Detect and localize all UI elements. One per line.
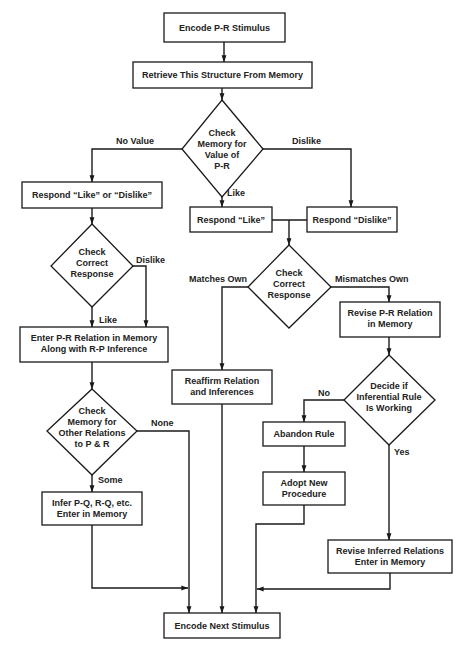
label-yes: Yes [394, 447, 410, 457]
node-label: Enter P-R Relation in Memory [31, 333, 158, 343]
node-label: in Memory [367, 319, 412, 329]
label-like-top: Like [227, 188, 245, 198]
node-label: Retrieve This Structure From Memory [142, 70, 303, 80]
edge-no [304, 400, 344, 422]
node-label: Along with R-P Inference [41, 344, 147, 354]
node-label: Respond “Dislike” [312, 215, 391, 225]
node-label: Correct [273, 279, 305, 289]
node-label: Enter in Memory [57, 509, 128, 519]
node-check-correct-left: Check Correct Response [51, 224, 133, 307]
edge-none [137, 431, 189, 613]
node-label: Correct [76, 258, 108, 268]
label-like-left: Like [99, 315, 117, 325]
edge-infer-to-join [92, 525, 188, 588]
node-label: Check [78, 406, 106, 416]
node-label: Decide if [370, 381, 409, 391]
node-label: Adopt New [281, 478, 329, 488]
node-check-other: Check Memory for Other Relations to P & … [47, 389, 137, 475]
edge-mismatches-own [331, 287, 389, 302]
node-label: Check [208, 128, 236, 138]
node-label: Procedure [282, 489, 327, 499]
node-check-correct-right: Check Correct Response [248, 245, 331, 328]
edge-dislike-left [133, 266, 146, 327]
node-label: Respond “Like” or “Dislike” [32, 190, 152, 200]
edge-no-value [92, 149, 182, 182]
node-label: and Inferences [190, 387, 254, 397]
node-infer-pq: Infer P-Q, R-Q, etc. Enter in Memory [42, 492, 142, 525]
edge-matches-own [222, 287, 248, 370]
node-respond-dislike: Respond “Dislike” [307, 207, 397, 232]
node-label: P-R [214, 161, 230, 171]
node-label: Reaffirm Relation [185, 376, 260, 386]
label-dislike-left: Dislike [136, 255, 165, 265]
label-no-value: No Value [116, 136, 154, 146]
label-mismatches-own: Mismatches Own [335, 274, 409, 284]
node-reaffirm: Reaffirm Relation and Inferences [172, 370, 272, 404]
node-label: Abandon Rule [274, 429, 335, 439]
node-label: Enter in Memory [355, 557, 426, 567]
node-label: Revise P-R Relation [347, 308, 432, 318]
label-matches-own: Matches Own [189, 274, 247, 284]
node-label: Check [78, 247, 106, 257]
node-decide-rule: Decide if Inferential Rule Is Working [344, 355, 435, 445]
node-enter-pr: Enter P-R Relation in Memory Along with … [20, 327, 168, 362]
node-label: to P & R [75, 439, 110, 449]
node-label: Encode P-R Stimulus [179, 23, 270, 33]
node-label: Infer P-Q, R-Q, etc. [52, 498, 132, 508]
label-some: Some [98, 475, 123, 485]
node-label: Response [70, 269, 113, 279]
label-none: None [151, 418, 174, 428]
node-encode-pr: Encode P-R Stimulus [164, 13, 285, 42]
node-adopt: Adopt New Procedure [263, 472, 345, 505]
node-label: Check [275, 268, 303, 278]
node-label: Memory for [67, 417, 117, 427]
node-label: Respond “Like” [197, 215, 265, 225]
flowchart-canvas: No Value Dislike Like Dislike Like Match… [0, 0, 471, 650]
node-check-value: Check Memory for Value of P-R [182, 100, 263, 197]
label-no: No [318, 388, 330, 398]
node-label: Value of [205, 150, 241, 160]
node-respond-like-or-dislike: Respond “Like” or “Dislike” [22, 182, 162, 208]
node-label: Inferential Rule [356, 392, 421, 402]
node-abandon: Abandon Rule [263, 422, 345, 446]
edge-revise-inferred-to-join [257, 573, 390, 589]
node-label: Other Relations [58, 428, 125, 438]
label-dislike-top: Dislike [292, 136, 321, 146]
node-label: Memory for [197, 139, 247, 149]
node-revise-inferred: Revise Inferred Relations Enter in Memor… [328, 540, 452, 573]
node-retrieve: Retrieve This Structure From Memory [133, 62, 312, 88]
edge-adopt-to-next [256, 505, 304, 613]
node-revise-pr: Revise P-R Relation in Memory [340, 302, 440, 337]
node-label: Revise Inferred Relations [336, 546, 444, 556]
node-label: Response [267, 290, 310, 300]
edge-dislike-top [263, 149, 351, 207]
node-encode-next: Encode Next Stimulus [164, 613, 280, 638]
node-label: Encode Next Stimulus [174, 621, 269, 631]
node-label: Is Working [366, 403, 412, 413]
node-respond-like: Respond “Like” [190, 207, 272, 232]
